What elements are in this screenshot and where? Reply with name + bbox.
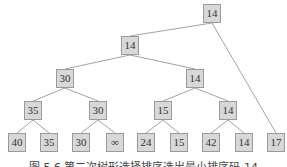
tree-edge <box>33 120 49 133</box>
leaf-node: 35 <box>40 133 58 152</box>
tree-edge <box>33 88 65 101</box>
tournament-tree-diagram: 1414301435301514403530∞2415421417 图 5.6 … <box>0 0 287 167</box>
tree-edge <box>211 120 228 133</box>
tree-edge <box>195 88 228 101</box>
tree-edge <box>163 120 179 133</box>
tree-edge <box>228 120 244 133</box>
tree-edge <box>130 23 212 36</box>
leaf-node: 42 <box>202 133 220 152</box>
leaf-node: 30 <box>72 133 90 152</box>
tree-node: 15 <box>154 101 172 120</box>
leaf-node: 14 <box>235 133 253 152</box>
leaf-node: ∞ <box>106 133 124 152</box>
tree-edge <box>65 55 130 69</box>
tree-node: 14 <box>219 101 237 120</box>
tree-edge <box>81 120 98 133</box>
tree-node: 14 <box>186 69 204 88</box>
tree-edge <box>17 120 33 133</box>
tree-node: 30 <box>56 69 74 88</box>
leaf-node: 17 <box>267 133 285 152</box>
tree-node: 14 <box>203 4 221 23</box>
tree-edge <box>163 88 195 101</box>
leaf-node: 15 <box>170 133 188 152</box>
tree-edge <box>65 88 98 101</box>
tree-node: 14 <box>121 36 139 55</box>
tree-node: 35 <box>24 101 42 120</box>
tree-node: 30 <box>89 101 107 120</box>
leaf-node: 40 <box>8 133 26 152</box>
tree-edge <box>130 55 195 69</box>
tree-edge <box>98 120 115 133</box>
leaf-node: 24 <box>137 133 155 152</box>
figure-caption: 图 5.6 第二次树形选择排序选出最小排序码 14 <box>0 158 287 167</box>
tree-edge <box>146 120 163 133</box>
